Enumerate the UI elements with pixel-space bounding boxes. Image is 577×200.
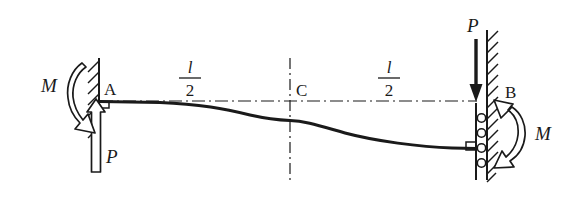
- roller-circle: [477, 159, 485, 167]
- span-right-denominator: 2: [385, 81, 394, 100]
- label-force-left: P: [105, 146, 118, 167]
- force-arrow-right-down: [470, 39, 483, 102]
- span-right-numerator: l: [387, 58, 392, 77]
- roller-circle: [477, 114, 485, 122]
- span-label-left: l 2: [179, 58, 201, 100]
- deflected-beam-curve: [100, 102, 476, 149]
- moment-arrow-left: [68, 63, 95, 133]
- beam-diagram-canvas: A B C M M P P l 2 l 2: [0, 0, 577, 200]
- label-moment-left: M: [40, 75, 58, 96]
- label-force-right: P: [466, 15, 479, 36]
- span-left-numerator: l: [188, 58, 193, 77]
- label-moment-right: M: [534, 123, 552, 144]
- roller-circle: [477, 144, 485, 152]
- roller-support-right: [476, 103, 486, 180]
- label-support-B: B: [505, 83, 516, 102]
- label-midpoint-C: C: [296, 81, 307, 100]
- label-support-A: A: [104, 80, 117, 99]
- moment-arrow-right: [494, 100, 525, 168]
- span-label-right: l 2: [378, 58, 400, 100]
- roller-circle: [477, 129, 485, 137]
- span-left-denominator: 2: [186, 81, 195, 100]
- beam-diagram-figure: A B C M M P P l 2 l 2: [0, 0, 577, 200]
